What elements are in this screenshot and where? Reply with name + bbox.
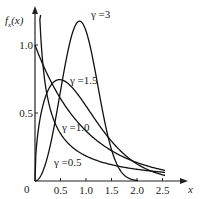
curve-label: γ =0.5 [53,156,82,168]
y-tick-label: 0.5 [19,107,33,119]
y-axis-arrow-icon [32,6,38,14]
y-axis-label: fx(x) [5,14,24,29]
x-tick-label: 2.5 [156,184,170,196]
y-tick-label: 1.0 [19,39,33,51]
x-tick-label: 1.5 [105,184,119,196]
x-axis-label: x [187,183,193,195]
x-tick-label: 2.0 [130,184,144,196]
curve-gamma-0-5 [40,15,165,172]
x-tick-label: 1.0 [79,184,93,196]
x-tick-label: 0.5 [54,184,68,196]
curve-label: γ =1.0 [61,121,90,133]
curve-label: γ =3 [90,8,111,20]
origin-label: 0 [24,183,30,195]
curve-label: γ =1.5 [69,74,98,86]
weibull-density-chart: 0.51.01.52.02.50.51.0 γ =0.5γ =1.0γ =1.5… [0,0,200,199]
x-axis-arrow-icon [180,178,188,184]
curve-gamma-1 [35,45,165,170]
y-axis-label-arg: (x) [11,14,24,27]
